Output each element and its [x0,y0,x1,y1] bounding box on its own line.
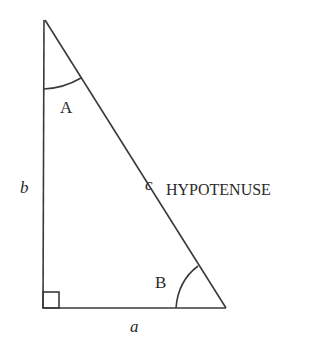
right-angle-marker [43,292,59,308]
triangle [43,20,226,308]
hypotenuse-line [45,20,226,308]
hypotenuse-label: HYPOTENUSE [166,181,271,198]
angle-a-label: A [60,98,73,117]
angle-a-arc [44,78,81,89]
side-b-line [43,20,44,308]
right-triangle-diagram: A c HYPOTENUSE b B a [0,0,317,360]
side-a-label: a [130,317,139,336]
side-b-label: b [20,178,29,197]
angle-b-arc [176,266,198,308]
angle-b-label: B [155,273,166,292]
side-c-label: c [145,175,153,194]
